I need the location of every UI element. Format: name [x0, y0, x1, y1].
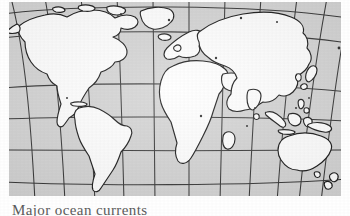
island-dot-j [295, 107, 297, 109]
island-dot-e [168, 19, 170, 21]
land-korea [296, 74, 302, 82]
land-alaska [9, 24, 20, 34]
island-dot-a [215, 57, 217, 59]
land-new-guinea [308, 123, 332, 133]
land-india [247, 89, 261, 110]
island-dot-k [308, 97, 310, 99]
land-caribbean-islands [71, 102, 87, 106]
land-africa [160, 61, 228, 164]
island-dot-h [120, 13, 122, 15]
island-dot-g [276, 21, 278, 23]
island-dot-l [254, 107, 256, 109]
island-dot-b [200, 115, 202, 117]
land-arctic-island-b [53, 7, 65, 12]
land-tasmania [314, 172, 320, 178]
land-sri-lanka [254, 114, 260, 120]
figure-caption: Major ocean currents [12, 203, 342, 216]
land-new-zealand-south [324, 181, 332, 189]
land-madagascar [223, 132, 235, 149]
land-baffin-island [107, 6, 126, 15]
island-dot-d [66, 97, 68, 99]
land-philippines [298, 99, 304, 108]
land-java [278, 130, 295, 135]
land-british-isles [174, 45, 181, 51]
land-japan-south [301, 84, 308, 90]
land-borneo [288, 113, 301, 125]
island-dot-c [246, 125, 248, 127]
land-iceland [158, 34, 171, 40]
map-plate [9, 2, 341, 196]
land-greenland [140, 7, 174, 29]
island-dot-f [240, 17, 242, 19]
island-dot-i [338, 47, 341, 50]
world-map-graphic [9, 2, 341, 196]
land-new-zealand [330, 173, 339, 182]
land-arctic-island-a [78, 5, 95, 11]
land-sumatra [265, 112, 285, 128]
land-philippines-b [304, 108, 309, 113]
land-australia [278, 133, 332, 171]
world-map-figure: Major ocean currents [0, 0, 350, 216]
